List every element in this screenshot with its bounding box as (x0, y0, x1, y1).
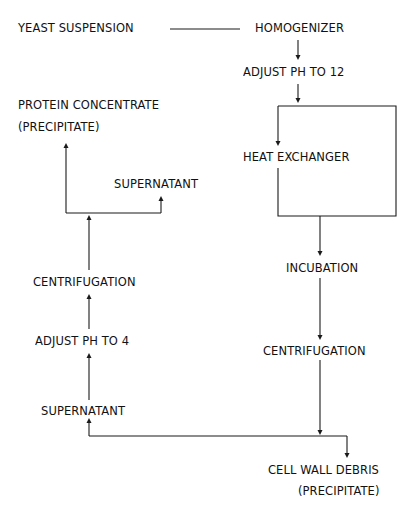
node-cell-wall-debris: CELL WALL DEBRIS (268, 463, 379, 477)
node-yeast-suspension: YEAST SUSPENSION (18, 21, 134, 35)
arrowhead-up-icon (159, 196, 164, 201)
node-cell-wall-debris-note: (PRECIPITATE) (298, 484, 380, 498)
node-incubation: INCUBATION (286, 261, 358, 275)
node-adjust-ph-12: ADJUST PH TO 12 (243, 65, 345, 79)
node-centrifugation-right: CENTRIFUGATION (263, 344, 366, 358)
arrowhead-up-icon (64, 143, 69, 148)
process-flow-diagram: YEAST SUSPENSION HOMOGENIZER ADJUST PH T… (0, 0, 418, 517)
node-centrifugation-left: CENTRIFUGATION (33, 275, 136, 289)
node-protein-concentrate: PROTEIN CONCENTRATE (18, 98, 159, 112)
node-supernatant-top: SUPERNATANT (114, 177, 198, 191)
node-protein-concentrate-note: (PRECIPITATE) (18, 120, 100, 134)
arrowhead-up-icon (87, 418, 92, 423)
node-heat-exchanger: HEAT EXCHANGER (243, 150, 349, 164)
arrowhead-down-icon (318, 430, 323, 435)
arrowhead-down-icon (318, 251, 323, 256)
node-homogenizer: HOMOGENIZER (255, 21, 344, 35)
node-supernatant-bottom: SUPERNATANT (41, 404, 125, 418)
arrowhead-up-icon (87, 353, 92, 358)
node-adjust-ph-4: ADJUST PH TO 4 (35, 334, 129, 348)
arrowhead-down-icon (296, 55, 301, 60)
arrowhead-down-icon (276, 141, 281, 146)
arrowhead-down-icon (345, 453, 350, 458)
connector-layer (0, 0, 418, 517)
arrowhead-up-icon (87, 294, 92, 299)
arrowhead-up-icon (87, 215, 92, 220)
arrowhead-down-icon (318, 335, 323, 340)
arrowhead-down-icon (296, 98, 301, 103)
